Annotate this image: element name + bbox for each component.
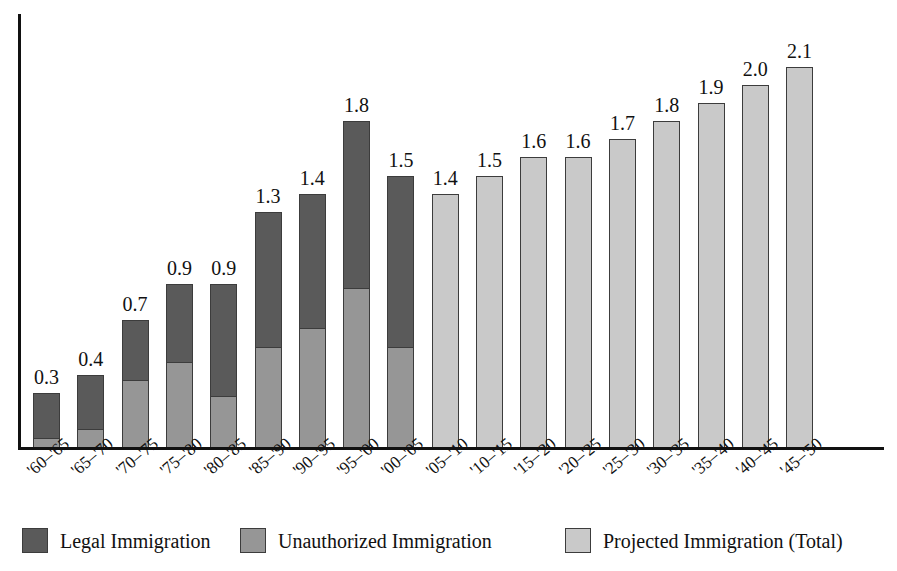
bar-column <box>742 85 769 447</box>
bar-column <box>255 212 282 447</box>
bar-value-label: 1.4 <box>282 167 342 189</box>
bar-value-label: 0.9 <box>194 257 254 279</box>
bar-column <box>210 284 237 447</box>
bar-segment-legal <box>387 176 414 348</box>
bar-segment-unauthorized <box>255 347 282 447</box>
bar-segment-projected <box>565 157 592 447</box>
legend-swatch-icon <box>240 528 266 553</box>
bar-value-label: 1.8 <box>327 94 387 116</box>
bar-segment-projected <box>609 139 636 447</box>
legend-item: Unauthorized Immigration <box>240 528 492 553</box>
bar-segment-unauthorized <box>343 288 370 447</box>
bar-segment-legal <box>122 320 149 380</box>
legend-label: Legal Immigration <box>60 529 211 553</box>
bar-segment-unauthorized <box>299 328 326 447</box>
bar-segment-projected <box>742 85 769 447</box>
bar-value-label: 0.4 <box>61 348 121 370</box>
bar-segment-legal <box>33 393 60 438</box>
legend-label: Projected Immigration (Total) <box>603 529 843 553</box>
bar-value-label: 0.7 <box>105 293 165 315</box>
bar-column <box>565 157 592 447</box>
legend-item: Legal Immigration <box>22 528 211 553</box>
bars-layer: 0.30.40.70.90.91.31.41.81.51.41.51.61.61… <box>0 0 897 460</box>
bar-segment-projected <box>653 121 680 447</box>
bar-segment-legal <box>299 194 326 328</box>
bar-segment-projected <box>432 194 459 447</box>
bar-column <box>476 176 503 448</box>
bar-segment-legal <box>210 284 237 396</box>
immigration-stacked-bar-chart: 0.30.40.70.90.91.31.41.81.51.41.51.61.61… <box>0 0 897 571</box>
bar-column <box>387 176 414 448</box>
bar-segment-projected <box>476 176 503 448</box>
bar-column <box>698 103 725 447</box>
bar-column <box>653 121 680 447</box>
bar-column <box>343 121 370 447</box>
bar-column <box>432 194 459 447</box>
bar-column <box>299 194 326 447</box>
bar-column <box>609 139 636 447</box>
legend-item: Projected Immigration (Total) <box>565 528 843 553</box>
bar-column <box>166 284 193 447</box>
bar-segment-unauthorized <box>387 347 414 447</box>
bar-segment-unauthorized <box>166 362 193 447</box>
bar-segment-legal <box>77 375 104 429</box>
legend-swatch-icon <box>565 528 591 553</box>
bar-segment-legal <box>343 121 370 288</box>
bar-column <box>122 320 149 447</box>
bar-segment-legal <box>166 284 193 362</box>
legend-swatch-icon <box>22 528 48 553</box>
bar-segment-legal <box>255 212 282 348</box>
x-axis-tick-labels: '60–'65'65–'70'70–'75'75–'80'80–'85'85–'… <box>0 452 897 514</box>
bar-value-label: 2.1 <box>770 40 830 62</box>
bar-segment-projected <box>786 67 813 447</box>
chart-legend: Legal ImmigrationUnauthorized Immigratio… <box>0 524 897 571</box>
bar-column <box>520 157 547 447</box>
bar-segment-projected <box>698 103 725 447</box>
bar-column <box>786 67 813 447</box>
plot-area: 0.30.40.70.90.91.31.41.81.51.41.51.61.61… <box>0 0 897 460</box>
legend-label: Unauthorized Immigration <box>278 529 492 553</box>
bar-segment-projected <box>520 157 547 447</box>
